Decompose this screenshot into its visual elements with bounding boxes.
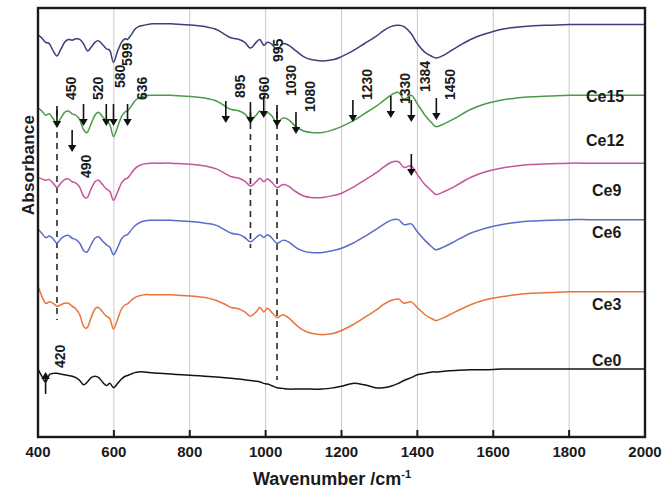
series-label-ce9: Ce9 [592,182,621,200]
y-axis-label: Absorbance [19,90,39,240]
x-tick-label-1800: 1800 [552,443,585,460]
x-tick-label-400: 400 [25,443,50,460]
x-tick-label-1600: 1600 [477,443,510,460]
peak-label-450: 450 [63,77,79,100]
x-axis-label-text: Wavenumber /cm [253,469,401,489]
peak-label-580: 580 [112,65,128,88]
peak-arrow-450 [53,106,61,128]
peak-arrow-1330 [387,96,395,118]
series-label-ce12: Ce12 [586,132,624,150]
peak-label-960: 960 [256,77,272,100]
x-axis-label: Wavenumber /cm-1 [0,468,664,490]
x-tick-label-800: 800 [177,443,202,460]
peak-label-895: 895 [232,75,248,98]
series-label-ce3: Ce3 [592,296,621,314]
x-tick-label-600: 600 [101,443,126,460]
series-label-ce6: Ce6 [592,224,621,242]
series-label-ce15: Ce15 [586,88,624,106]
plot-canvas [0,0,664,500]
peak-label-490: 490 [78,155,94,178]
peak-arrow-599 [109,104,117,126]
peak-label-520: 520 [90,77,106,100]
peak-label-1450: 1450 [442,69,458,100]
x-tick-label-1000: 1000 [249,443,282,460]
series-label-ce0: Ce0 [592,352,621,370]
peak-label-1230: 1230 [359,69,375,100]
peak-label-1080: 1080 [302,81,318,112]
peak-label-636: 636 [134,77,150,100]
x-axis-label-exponent: -1 [401,468,411,480]
peak-label-1030: 1030 [283,65,299,96]
peak-arrow-1030 [273,105,281,127]
ftir-spectra-figure: Absorbance Wavenumber /cm-1 400600800100… [0,0,664,500]
peak-label-995: 995 [270,39,286,62]
peak-arrow-960 [246,102,254,124]
x-tick-label-2000: 2000 [628,443,661,460]
peak-label-1384: 1384 [417,61,433,92]
x-tick-label-1400: 1400 [401,443,434,460]
peak-arrow-1450 [432,98,440,120]
x-tick-label-1200: 1200 [325,443,358,460]
peak-label-599: 599 [119,43,135,66]
peak-label-1330: 1330 [397,73,413,104]
peak-arrow-1384-ce12 [407,154,415,176]
peak-arrow-490 [68,130,76,152]
peak-label-420: 420 [52,345,68,368]
